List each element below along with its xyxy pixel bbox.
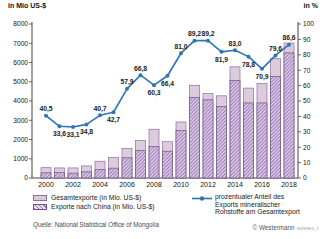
left-axis-tick-label: 4000 bbox=[13, 97, 28, 104]
right-axis-tick-label: 60 bbox=[303, 82, 311, 89]
left-axis-tick-label: 5000 bbox=[13, 78, 28, 85]
percent-share-point bbox=[193, 39, 197, 43]
percent-share-point bbox=[206, 39, 210, 43]
line-legend-text: prozentualer Anteil des Exports minerali… bbox=[215, 193, 300, 216]
percent-value-label: 89,2 bbox=[188, 30, 201, 38]
bar-exports-to-china bbox=[257, 103, 267, 178]
bar-exports-to-china bbox=[244, 103, 254, 178]
bar-exports-to-china bbox=[68, 173, 78, 178]
percent-value-label: 81,0 bbox=[174, 43, 187, 51]
percent-share-point bbox=[166, 74, 170, 78]
percent-value-label: 81,9 bbox=[215, 56, 228, 64]
bar-exports-to-china bbox=[109, 168, 119, 178]
percent-value-label: 78,8 bbox=[242, 61, 255, 69]
figure-code: 36969EX_1 bbox=[297, 226, 319, 231]
bar-exports-to-china bbox=[55, 173, 65, 178]
copyright-note: © Westermann36969EX_1 bbox=[253, 224, 319, 231]
percent-value-label: 66,4 bbox=[161, 80, 174, 88]
x-axis-tick-label: 2012 bbox=[200, 181, 216, 188]
bar-exports-to-china bbox=[41, 173, 51, 178]
percent-value-label: 40,7 bbox=[93, 105, 106, 113]
legend-item-label: Exporte nach China (in Mio. US-$) bbox=[51, 203, 155, 210]
x-axis-tick-label: 2014 bbox=[227, 181, 243, 188]
line-legend: prozentualer Anteil des Exports minerali… bbox=[192, 193, 300, 216]
percent-value-label: 33,1 bbox=[66, 131, 79, 139]
percent-share-point bbox=[85, 122, 89, 126]
line-legend-line1: prozentualer Anteil des bbox=[215, 193, 300, 201]
bar-exports-to-china bbox=[203, 100, 213, 178]
bar-exports-to-china bbox=[217, 107, 227, 178]
percent-value-label: 83,0 bbox=[228, 40, 241, 48]
percent-share-point bbox=[125, 87, 129, 91]
right-axis-tick-label: 30 bbox=[303, 128, 311, 135]
bar-exports-to-china bbox=[230, 80, 240, 178]
percent-share-point bbox=[260, 67, 264, 71]
percent-value-label: 86,6 bbox=[282, 34, 295, 42]
percent-share-point bbox=[44, 114, 48, 118]
percent-value-label: 34,8 bbox=[80, 128, 93, 136]
x-axis-tick-label: 2004 bbox=[92, 181, 108, 188]
percent-value-label: 40,5 bbox=[39, 105, 52, 113]
bar-exports-to-china bbox=[176, 130, 186, 178]
right-axis-tick-label: 20 bbox=[303, 144, 311, 151]
right-axis-tick-label: 0 bbox=[303, 174, 307, 181]
bar-exports-to-china bbox=[82, 172, 92, 178]
right-axis-tick-label: 100 bbox=[303, 20, 314, 27]
percent-value-label: 57,9 bbox=[120, 78, 133, 86]
line-legend-line2: Exports mineralischer bbox=[215, 201, 300, 209]
percent-value-label: 79,6 bbox=[269, 45, 282, 53]
percent-share-point bbox=[179, 51, 183, 55]
percent-share-point bbox=[220, 50, 224, 54]
left-axis-tick-label: 0 bbox=[24, 174, 28, 181]
percent-share-point bbox=[71, 125, 75, 129]
percent-share-point bbox=[98, 113, 102, 117]
x-axis-tick-label: 2000 bbox=[38, 181, 54, 188]
line-series-marker-icon bbox=[192, 195, 212, 202]
percent-value-label: 70,9 bbox=[255, 73, 268, 81]
bar-exports-to-china bbox=[163, 151, 173, 178]
percent-share-point bbox=[152, 83, 156, 87]
percent-value-label: 60,3 bbox=[147, 89, 160, 97]
right-axis-tick-label: 40 bbox=[303, 113, 311, 120]
percent-share-point bbox=[274, 53, 278, 57]
right-axis-tick-label: 70 bbox=[303, 67, 311, 74]
bar-legend: Gesamtexporte (in Mio. US-$) Exporte nac… bbox=[33, 194, 155, 212]
percent-value-label: 42,7 bbox=[107, 116, 120, 124]
x-axis-tick-label: 2010 bbox=[173, 181, 189, 188]
copyright-text: © Westermann bbox=[253, 224, 295, 231]
bar-exports-to-china bbox=[122, 158, 132, 178]
source-note: Quelle: National Statistical Office of M… bbox=[33, 221, 159, 228]
x-axis-tick-label: 2008 bbox=[146, 181, 162, 188]
percent-share-point bbox=[287, 43, 291, 47]
percent-share-point bbox=[58, 124, 62, 128]
mongolia-exports-figure: in Mio US-$ in % 01000200030004000500060… bbox=[0, 0, 322, 239]
bar-exports-to-china bbox=[190, 98, 200, 178]
left-axis-tick-label: 6000 bbox=[13, 59, 28, 66]
percent-value-label: 66,8 bbox=[134, 65, 147, 73]
legend-item-label: Gesamtexporte (in Mio. US-$) bbox=[51, 194, 141, 201]
percent-share-point bbox=[247, 55, 251, 59]
legend-item-china: Exporte nach China (in Mio. US-$) bbox=[33, 203, 155, 210]
percent-value-label: 33,6 bbox=[53, 130, 66, 138]
bar-exports-to-china bbox=[271, 77, 281, 178]
right-axis-tick-label: 10 bbox=[303, 159, 311, 166]
china-exports-swatch-icon bbox=[33, 204, 47, 210]
total-exports-swatch-icon bbox=[33, 195, 47, 201]
left-axis-tick-label: 1000 bbox=[13, 155, 28, 162]
x-axis-tick-label: 2016 bbox=[254, 181, 270, 188]
left-axis-tick-label: 7000 bbox=[13, 40, 28, 47]
percent-share-point bbox=[139, 73, 143, 77]
percent-value-label: 89,2 bbox=[201, 30, 214, 38]
left-axis-tick-label: 8000 bbox=[13, 20, 28, 27]
legend-item-total: Gesamtexporte (in Mio. US-$) bbox=[33, 194, 155, 201]
x-axis-tick-label: 2002 bbox=[65, 181, 81, 188]
right-axis-tick-label: 90 bbox=[303, 36, 311, 43]
right-axis-tick-label: 80 bbox=[303, 51, 311, 58]
bar-exports-to-china bbox=[136, 151, 146, 178]
left-axis-tick-label: 3000 bbox=[13, 117, 28, 124]
bar-exports-to-china bbox=[284, 53, 294, 178]
left-axis-tick-label: 2000 bbox=[13, 136, 28, 143]
bar-exports-to-china bbox=[95, 170, 105, 178]
line-legend-line3: Rohstoffe am Gesamtexport bbox=[215, 208, 300, 216]
right-axis-tick-label: 50 bbox=[303, 97, 311, 104]
